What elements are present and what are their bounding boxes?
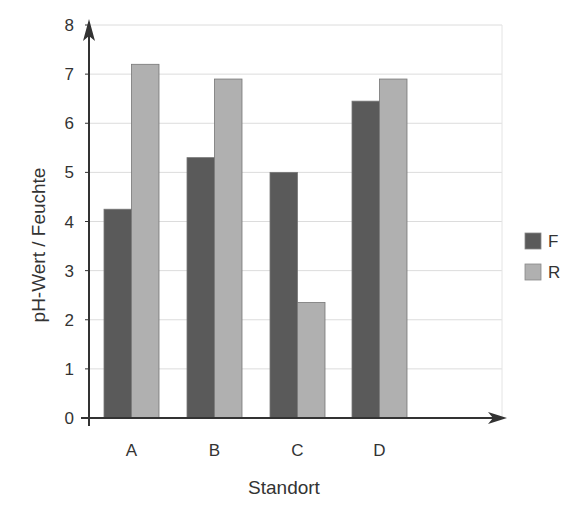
y-tick-label: 4 [65, 213, 74, 232]
x-tick-label: C [291, 441, 303, 460]
bar-R-D [380, 79, 408, 418]
y-tick-label: 2 [65, 311, 74, 330]
bar-R-A [132, 64, 160, 418]
y-tick-label: 8 [65, 16, 74, 35]
bar-R-B [215, 79, 243, 418]
bar-F-B [187, 158, 215, 418]
legend-swatch-R [525, 264, 541, 280]
y-tick-label: 5 [65, 163, 74, 182]
y-tick-label: 0 [65, 409, 74, 428]
legend-label-F: F [548, 232, 558, 251]
bar-F-A [104, 209, 132, 418]
y-tick-label: 3 [65, 262, 74, 281]
bar-F-D [352, 101, 380, 418]
y-tick-label: 6 [65, 114, 74, 133]
legend-swatch-F [525, 233, 541, 249]
y-tick-label: 1 [65, 360, 74, 379]
x-tick-label: B [209, 441, 220, 460]
bar-R-C [298, 303, 326, 418]
x-tick-label: A [126, 441, 138, 460]
bar-F-C [270, 172, 298, 418]
x-tick-label: D [373, 441, 385, 460]
legend-label-R: R [548, 263, 560, 282]
y-tick-label: 7 [65, 65, 74, 84]
y-axis-label: pH-Wert / Feuchte [28, 168, 49, 323]
x-axis-label: Standort [248, 477, 321, 498]
bar-chart: 012345678ABCDStandortpH-Wert / FeuchteFR [0, 0, 575, 514]
